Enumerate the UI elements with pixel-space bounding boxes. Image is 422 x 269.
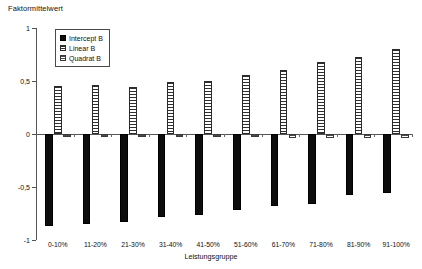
bar-intercept — [346, 134, 354, 195]
bar-quadrat — [63, 134, 71, 137]
bar-quadrat — [289, 134, 297, 138]
bar-group — [308, 28, 334, 240]
x-axis-tick — [412, 134, 413, 137]
y-axis-tick-label: -0,5 — [18, 184, 30, 191]
y-axis-tick — [32, 134, 36, 135]
legend-item-intercept: Intercept B — [60, 33, 103, 43]
x-axis-category-label: 91-100% — [383, 241, 410, 248]
x-axis-category-label: 0-10% — [48, 241, 68, 248]
bar-intercept — [233, 134, 241, 210]
bar-group — [271, 28, 297, 240]
x-axis-category-label: 61-70% — [272, 241, 295, 248]
x-axis-category-label: 41-50% — [196, 241, 219, 248]
bar-linear — [280, 70, 288, 134]
bar-linear — [167, 82, 175, 134]
bar-quadrat — [176, 134, 184, 137]
x-axis-tick — [224, 134, 225, 137]
y-axis-tick — [32, 28, 36, 29]
bar-quadrat — [101, 134, 109, 137]
x-axis-tick — [149, 134, 150, 137]
bar-linear — [204, 81, 212, 134]
bar-quadrat — [364, 134, 372, 138]
bar-linear — [129, 87, 137, 134]
x-axis-tick — [262, 134, 263, 137]
bar-linear — [392, 49, 400, 134]
chart-container: Faktormittelwert 10,50-0,5-1 Leistungsgr… — [0, 0, 422, 269]
y-axis-tick — [32, 81, 36, 82]
bar-intercept — [45, 134, 53, 226]
legend-label-intercept: Intercept B — [69, 35, 103, 42]
bar-intercept — [383, 134, 391, 193]
x-axis-category-label: 21-30% — [121, 241, 144, 248]
bar-quadrat — [326, 134, 334, 138]
y-axis-tick-label: -1 — [24, 237, 30, 244]
x-axis-category-label: 51-60% — [234, 241, 257, 248]
bar-intercept — [158, 134, 166, 217]
bar-intercept — [271, 134, 279, 206]
y-axis-title: Faktormittelwert — [8, 4, 63, 13]
x-axis-tick — [74, 134, 75, 137]
bar-linear — [355, 57, 363, 134]
bar-group — [233, 28, 259, 240]
bar-group — [120, 28, 146, 240]
x-axis-tick — [186, 134, 187, 137]
legend-item-quadrat: Quadrat B — [60, 53, 103, 63]
bar-intercept — [308, 134, 316, 204]
legend-swatch-linear-icon — [60, 45, 66, 51]
x-axis-category-label: 31-40% — [159, 241, 182, 248]
bar-intercept — [120, 134, 128, 222]
x-axis-category-label: 81-90% — [347, 241, 370, 248]
legend-item-linear: Linear B — [60, 43, 103, 53]
bar-linear — [242, 75, 250, 134]
bar-quadrat — [251, 134, 259, 137]
bar-group — [158, 28, 184, 240]
y-axis-tick-label: 0 — [26, 131, 30, 138]
y-axis-tick-label: 0,5 — [20, 78, 30, 85]
chart-legend: Intercept B Linear B Quadrat B — [55, 29, 110, 67]
x-axis-tick — [299, 134, 300, 137]
bar-group — [383, 28, 409, 240]
bar-linear — [317, 62, 325, 134]
bar-linear — [92, 85, 100, 134]
bar-group — [346, 28, 372, 240]
y-axis-tick-label: 1 — [26, 25, 30, 32]
x-axis-title: Leistungsgruppe — [0, 252, 422, 261]
x-axis-category-label: 71-80% — [309, 241, 332, 248]
bar-linear — [54, 86, 62, 134]
legend-swatch-intercept-icon — [60, 35, 66, 41]
y-axis-tick-labels: 10,50-0,5-1 — [0, 28, 30, 240]
bar-quadrat — [401, 134, 409, 138]
x-axis-tick — [337, 134, 338, 137]
bar-quadrat — [138, 134, 146, 137]
x-axis-tick — [374, 134, 375, 137]
bar-quadrat — [213, 134, 221, 137]
y-axis-tick — [32, 240, 36, 241]
x-axis-tick — [111, 134, 112, 137]
bar-group — [195, 28, 221, 240]
bar-intercept — [83, 134, 91, 224]
x-axis-category-label: 11-20% — [84, 241, 107, 248]
legend-label-linear: Linear B — [69, 45, 95, 52]
legend-label-quadrat: Quadrat B — [69, 55, 101, 62]
legend-swatch-quadrat-icon — [60, 55, 66, 61]
y-axis-tick — [32, 187, 36, 188]
bar-intercept — [195, 134, 203, 215]
